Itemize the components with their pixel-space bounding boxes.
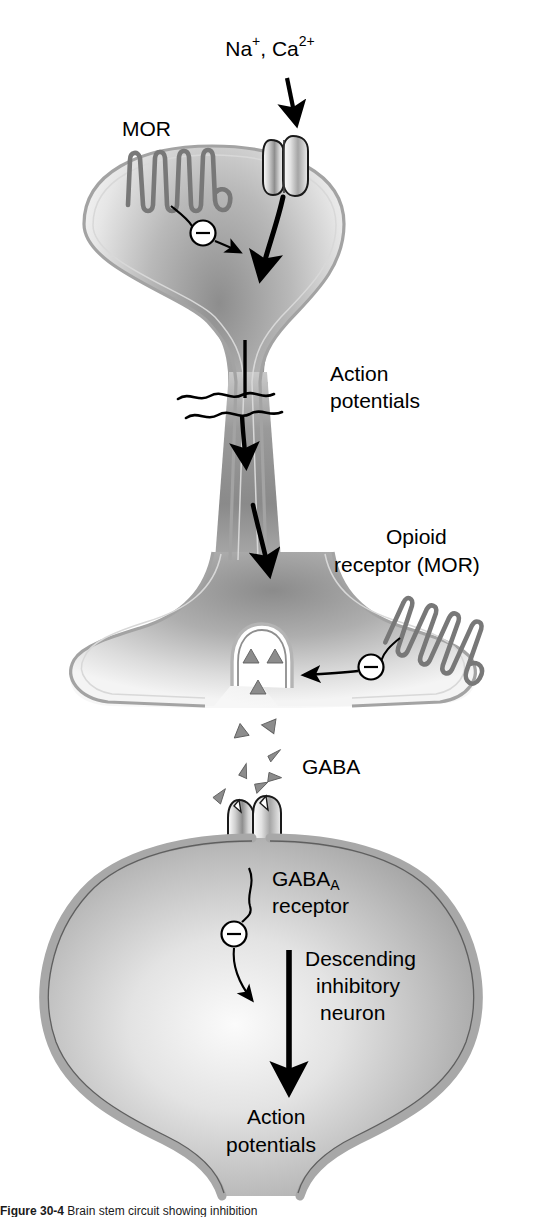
- svg-text:Na+, Ca2+: Na+, Ca2+: [225, 33, 315, 60]
- action-potentials-top-label-line1: Action: [330, 362, 388, 385]
- ions-ca: Ca: [272, 37, 299, 60]
- ions-na: Na: [225, 37, 252, 60]
- inhibition-symbol: [222, 922, 247, 947]
- mor-label: MOR: [122, 117, 171, 140]
- descending-label-line3: neuron: [320, 1001, 385, 1024]
- gaba-a-receptor-label-line2: receptor: [272, 894, 349, 917]
- presynaptic-upper-bulb: [84, 146, 344, 560]
- presynaptic-axon-shaft: [215, 372, 281, 560]
- synaptic-vesicle: [232, 624, 292, 694]
- gaba-label: GABA: [302, 755, 360, 778]
- ions-na-sup: +: [252, 33, 260, 49]
- descending-label-line2: inhibitory: [316, 974, 401, 997]
- svg-text:GABAA: GABAA: [272, 867, 340, 893]
- figure-root: Na+, Ca2+ MOR Action potentials Opioid r…: [0, 0, 546, 1217]
- gaba-molecules-cleft: [231, 714, 282, 787]
- inhibition-symbol: [191, 221, 216, 246]
- synapse-diagram: Na+, Ca2+ MOR Action potentials Opioid r…: [0, 0, 546, 1217]
- ion-channel: [263, 136, 308, 196]
- caption-label: Figure 30-4: [0, 1205, 64, 1217]
- ions-ca-sup: 2+: [299, 33, 315, 49]
- opioid-receptor-label-line1: Opioid: [386, 525, 447, 548]
- ions-label: Na+, Ca2+: [225, 33, 315, 60]
- figure-caption: Figure 30-4 Brain stem circuit showing i…: [0, 1205, 546, 1217]
- inhibition-symbol: [359, 655, 384, 680]
- opioid-receptor-label-line2: receptor (MOR): [334, 553, 480, 576]
- ion-influx-arrow: [287, 78, 296, 122]
- action-potentials-top-label-line2: potentials: [330, 389, 420, 412]
- action-potentials-bottom-label-line1: Action: [247, 1105, 305, 1128]
- action-potentials-bottom-label-line2: potentials: [226, 1133, 316, 1156]
- gaba-a-main: GABA: [272, 867, 330, 890]
- ions-sep: ,: [260, 37, 272, 60]
- gaba-a-subscript: A: [330, 877, 340, 893]
- caption-rest: Brain stem circuit showing inhibition: [64, 1205, 257, 1217]
- descending-label-line1: Descending: [305, 947, 416, 970]
